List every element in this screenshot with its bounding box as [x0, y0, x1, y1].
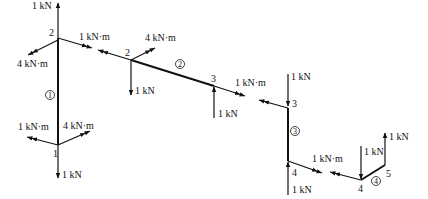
- m1-top-moment-right-label: 1 kN·m: [79, 31, 110, 42]
- member-3: 1 kN 3 3 4 1 kN 1 kN·m: [259, 71, 343, 195]
- moment-arrow-icon: [28, 40, 58, 55]
- moment-arrow-icon: [131, 48, 155, 60]
- m2-left-force-label: 1 kN: [135, 85, 155, 96]
- moment-arrow-icon: [259, 100, 288, 108]
- moment-arrow-icon: [58, 131, 90, 145]
- m3-joint-3-label: 3: [292, 98, 297, 109]
- member-2-bar: [131, 60, 214, 86]
- member-3-number: 3: [293, 127, 297, 136]
- member-1: 1 kN 2 4 kN·m 1 kN·m 1 1 1 kN·m 4 kN·m 1…: [17, 0, 110, 180]
- m4-left-force-label: 1 kN: [364, 146, 384, 157]
- m2-joint-2-label: 2: [125, 47, 130, 58]
- m3-joint-4-label: 4: [292, 167, 297, 178]
- moment-arrow-icon: [330, 172, 361, 180]
- m1-joint-2-label: 2: [49, 27, 54, 38]
- m3-bottom-force-label: 1 kN: [292, 184, 312, 195]
- m1-top-force-label: 1 kN: [32, 0, 52, 11]
- member-4-number: 4: [374, 177, 378, 186]
- m3-bottom-moment-label: 1 kN·m: [312, 153, 343, 164]
- m4-joint-4-label: 4: [358, 183, 363, 194]
- moment-arrow-icon: [27, 137, 58, 145]
- member-2-number: 2: [178, 60, 182, 69]
- m2-left-moment-label: 4 kN·m: [145, 32, 176, 43]
- m4-joint-5-label: 5: [386, 168, 391, 179]
- member-2: 2 4 kN·m 1 kN 2 3 1 kN 1 kN·m: [98, 32, 266, 119]
- m1-joint-1-label: 1: [53, 148, 58, 159]
- m2-right-force-label: 1 kN: [218, 108, 238, 119]
- m1-bottom-force-label: 1 kN: [62, 169, 82, 180]
- m1-bottom-moment-right-label: 4 kN·m: [63, 120, 94, 131]
- m2-joint-3-label: 3: [211, 73, 216, 84]
- member-1-number: 1: [48, 91, 52, 100]
- frame-fbd-diagram: 1 kN 2 4 kN·m 1 kN·m 1 1 1 kN·m 4 kN·m 1…: [0, 0, 428, 199]
- m2-right-moment-label: 1 kN·m: [235, 77, 266, 88]
- m4-right-force-label: 1 kN: [389, 131, 409, 142]
- m3-top-force-label: 1 kN: [291, 71, 311, 82]
- m1-top-moment-left-label: 4 kN·m: [17, 58, 48, 69]
- m1-bottom-moment-left-label: 1 kN·m: [18, 121, 49, 132]
